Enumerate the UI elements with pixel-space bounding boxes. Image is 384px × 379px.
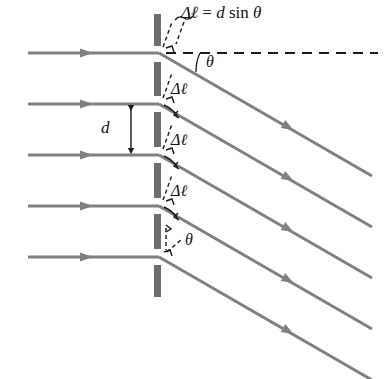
path-difference-equation: Δℓ = d sin θ [181,4,261,21]
diffraction-grating-figure: Δℓ = d sin θ θ θ d Δℓ Δℓ Δℓ [0,0,384,379]
equation-equals: = [202,3,212,22]
right-angle-tick [166,46,174,52]
construction-dash [176,22,184,44]
construction-dash [163,22,172,47]
incident-ray-arrowhead [80,202,93,211]
right-angle-tick [166,199,174,205]
incident-ray-arrowhead [80,49,93,58]
barrier-segment [154,14,161,46]
slit-spacing-label: d [101,119,110,136]
diffracted-ray-arrowheads [281,120,296,338]
incident-ray-arrowhead [80,151,93,160]
path-difference-label: Δℓ [171,132,187,148]
diffracted-ray [159,155,372,278]
theta-arc [196,53,200,72]
diffracted-ray [159,257,372,379]
path-difference-label: Δℓ [171,183,187,199]
barrier-segment [154,163,161,198]
path-difference-label: Δℓ [171,81,187,97]
equation-d: d [216,3,225,22]
diffracted-ray [159,53,372,176]
barrier-segment [154,214,161,249]
right-angle-tick [166,148,174,154]
barrier-segment [154,265,161,297]
theta-label-bottom: θ [185,232,193,248]
diffracted-rays [159,53,372,379]
diffracted-ray [159,206,372,329]
right-angle-tick [166,97,174,103]
diffracted-ray [159,104,372,227]
incident-ray-arrowhead [80,100,93,109]
diagram-canvas [0,0,384,379]
barrier-segment [154,112,161,147]
barrier-segment [154,62,161,96]
theta-label-top: θ [206,54,214,70]
incident-rays [28,49,159,262]
arrow-tick [166,225,171,232]
equation-sin: sin [229,3,249,22]
equation-delta-l: Δℓ [181,3,198,22]
equation-theta: θ [253,3,261,22]
right-angle-tick [164,250,172,256]
incident-ray-arrowhead [80,253,93,262]
